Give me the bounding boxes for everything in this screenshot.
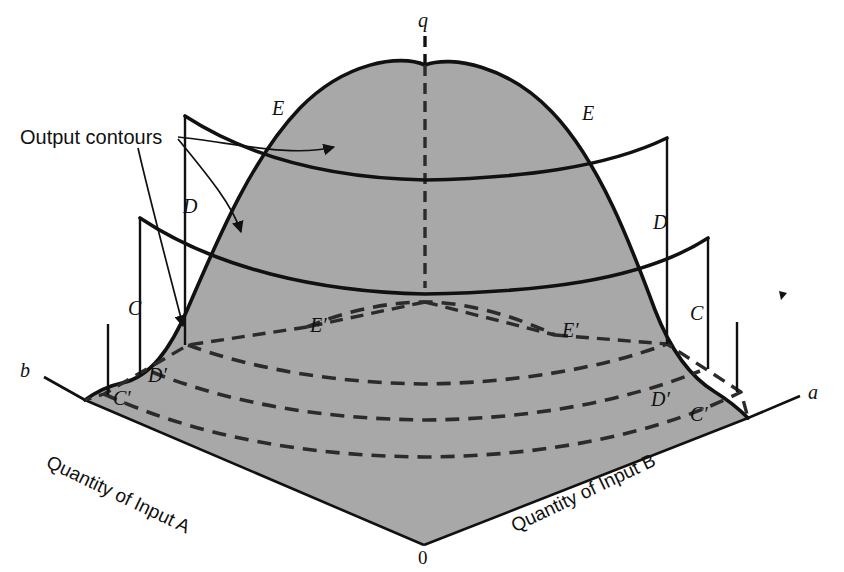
axis-label-a: a — [808, 382, 818, 402]
surface-point-label-E-right: E — [582, 103, 594, 123]
production-surface-figure: q b a 0 Output contours E E D D C C E′ E… — [0, 0, 844, 572]
annotation-leader-to-base-contour — [138, 148, 183, 326]
base-point-label-D-prime-right: D′ — [651, 389, 670, 409]
axis-ray-a — [748, 396, 800, 418]
surface-point-label-E-left: E — [272, 98, 284, 118]
axis-label-b: b — [20, 360, 30, 380]
base-point-label-C-prime-right: C′ — [690, 404, 708, 424]
surface-point-label-C-left: C — [128, 298, 141, 318]
scan-artifact-mark — [779, 291, 787, 300]
axis-ray-b — [44, 377, 85, 400]
origin-label-0: 0 — [418, 548, 428, 567]
base-point-label-E-prime-left: E′ — [310, 315, 327, 335]
output-contours-annotation: Output contours — [20, 127, 162, 147]
surface-point-label-D-left: D — [183, 196, 197, 216]
base-point-label-D-prime-left: D′ — [148, 365, 167, 385]
base-point-label-C-prime-left: C′ — [113, 388, 131, 408]
base-point-label-E-prime-right: E′ — [562, 320, 579, 340]
surface-point-label-D-right: D — [653, 212, 667, 232]
surface-point-label-C-right: C — [690, 303, 703, 323]
axis-label-q: q — [418, 10, 428, 30]
